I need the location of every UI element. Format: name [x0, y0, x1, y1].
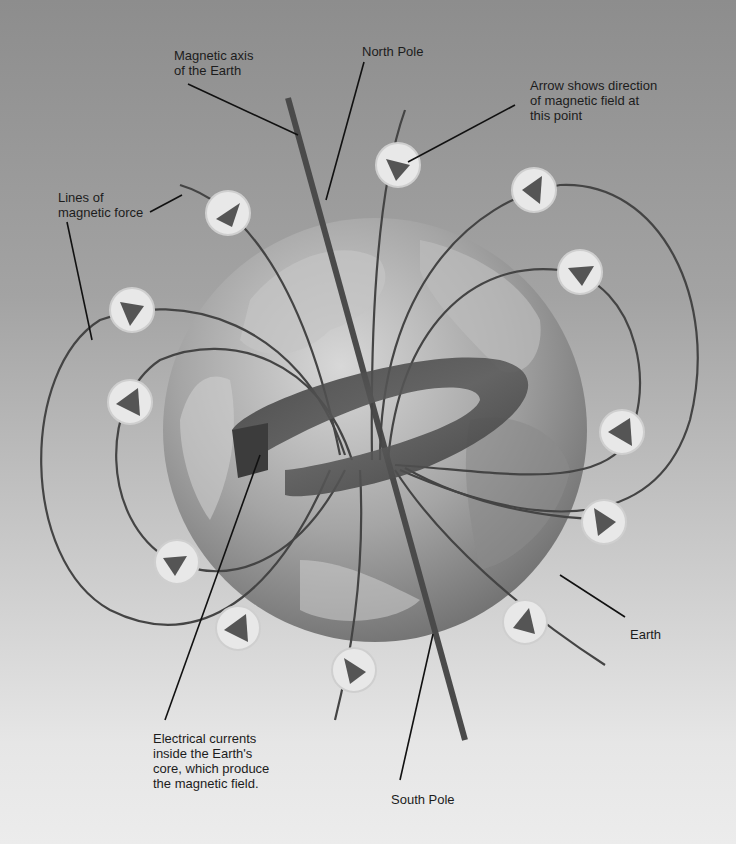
label-earth: Earth	[630, 627, 661, 642]
diagram-artwork	[0, 0, 736, 844]
arrow-marker-left-2	[108, 380, 152, 424]
label-north-pole: North Pole	[362, 44, 423, 59]
arrow-marker-upper-left	[206, 191, 250, 235]
label-arrow-direction: Arrow shows direction of magnetic field …	[530, 78, 657, 123]
label-magnetic-axis: Magnetic axis of the Earth	[174, 48, 253, 78]
arrow-marker-lower-right	[503, 600, 547, 644]
arrow-marker-right-2	[558, 250, 602, 294]
arrow-marker-lower-left-1	[155, 540, 199, 584]
label-lines-of-force: Lines of magnetic force	[58, 190, 143, 220]
label-south-pole: South Pole	[391, 792, 455, 807]
arrow-marker-bottom	[332, 648, 376, 692]
arrow-marker-right-3	[600, 410, 644, 454]
arrow-marker-top	[376, 143, 420, 187]
arrow-marker-left-1	[110, 288, 154, 332]
magnetic-field-diagram: Magnetic axis of the Earth North Pole Ar…	[0, 0, 736, 844]
arrow-marker-lower-left-2	[216, 606, 260, 650]
arrow-marker-right-4	[582, 500, 626, 544]
label-electrical-currents: Electrical currents inside the Earth's c…	[153, 731, 269, 791]
arrow-marker-right-1	[512, 168, 556, 212]
